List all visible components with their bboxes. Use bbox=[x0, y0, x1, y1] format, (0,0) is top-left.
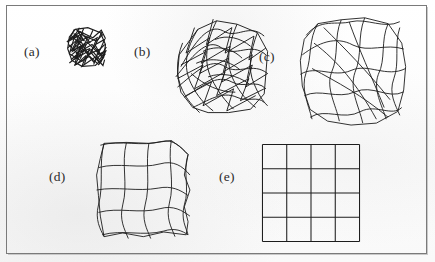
panel-label-c: (c) bbox=[259, 49, 275, 65]
panel-label-a: (a) bbox=[24, 44, 40, 60]
grid-panel-a bbox=[66, 26, 108, 68]
panel-label-d: (d) bbox=[49, 169, 65, 185]
grid-panel-b bbox=[168, 14, 272, 116]
panel-label-e: (e) bbox=[219, 169, 235, 185]
grid-panel-d bbox=[88, 134, 206, 246]
figure-root: (a) (b) bbox=[0, 0, 435, 262]
grid-panel-e bbox=[256, 141, 366, 245]
grid-panel-c bbox=[294, 10, 412, 127]
panel-label-b: (b) bbox=[134, 44, 150, 60]
